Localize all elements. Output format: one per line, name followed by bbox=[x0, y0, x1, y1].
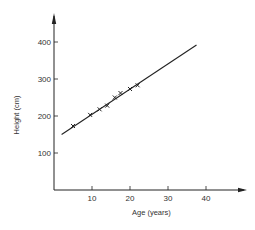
x-tick-label: 40 bbox=[202, 194, 211, 203]
y-axis-label: Height (cm) bbox=[12, 95, 21, 134]
y-tick-label: 400 bbox=[38, 38, 52, 47]
x-ticks: 10203040 bbox=[88, 186, 211, 203]
x-tick-label: 20 bbox=[126, 194, 135, 203]
chart: 100200300400 10203040 Age (years) Height… bbox=[0, 0, 255, 230]
data-point-marker bbox=[128, 87, 132, 91]
x-tick-label: 10 bbox=[88, 194, 97, 203]
y-tick-label: 200 bbox=[38, 112, 52, 121]
x-axis-label: Age (years) bbox=[132, 208, 171, 217]
y-axis-arrow-icon bbox=[52, 13, 56, 24]
data-point-marker bbox=[119, 91, 123, 95]
x-tick-label: 30 bbox=[164, 194, 173, 203]
y-tick-label: 100 bbox=[38, 149, 52, 158]
axes bbox=[52, 13, 247, 192]
y-ticks: 100200300400 bbox=[38, 38, 58, 158]
y-tick-label: 300 bbox=[38, 75, 52, 84]
x-axis-arrow-icon bbox=[238, 188, 247, 192]
data-point-marker bbox=[98, 107, 102, 111]
